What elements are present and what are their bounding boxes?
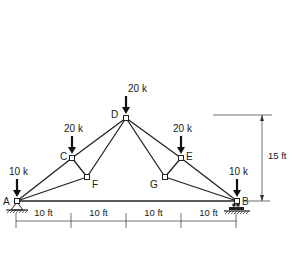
arrow-down-icon xyxy=(177,147,185,154)
truss-members xyxy=(17,118,237,201)
node-e xyxy=(179,156,184,161)
span-label: 10 ft xyxy=(199,207,218,218)
load-d: 20 k xyxy=(122,83,148,114)
node-b xyxy=(235,199,240,204)
load-e: 20 k xyxy=(173,123,193,154)
node-label-f: F xyxy=(92,179,98,190)
arrow-down-icon xyxy=(122,107,130,114)
arrow-down-icon xyxy=(233,190,241,197)
load-label-c: 20 k xyxy=(64,123,84,134)
load-c: 20 k xyxy=(64,123,84,154)
load-label-d: 20 k xyxy=(128,83,148,94)
node-c xyxy=(70,156,75,161)
load-b: 10 k xyxy=(229,166,249,197)
node-g xyxy=(163,175,168,180)
member-eb xyxy=(181,158,237,201)
node-d xyxy=(124,116,129,121)
span-label: 10 ft xyxy=(144,207,163,218)
span-dimension: 10 ft10 ft10 ft10 ft xyxy=(16,207,237,228)
load-label-a: 10 k xyxy=(9,166,29,177)
load-label-b: 10 k xyxy=(229,166,249,177)
member-af xyxy=(17,177,87,201)
node-label-a: A xyxy=(3,196,10,207)
load-label-e: 20 k xyxy=(173,123,193,134)
node-f xyxy=(85,175,90,180)
node-label-d: D xyxy=(111,109,118,120)
height-dimension: 15 ft xyxy=(213,115,287,201)
node-label-b: B xyxy=(242,196,249,207)
arrow-down-icon xyxy=(68,147,76,154)
arrow-down-icon xyxy=(13,190,21,197)
node-label-g: G xyxy=(150,179,158,190)
load-a: 10 k xyxy=(9,166,29,197)
member-dg xyxy=(126,118,165,177)
node-label-e: E xyxy=(186,151,193,162)
truss-diagram: ABCDEFG 10 k20 k20 k20 k10 k 10 ft10 ft1… xyxy=(0,0,292,257)
member-ac xyxy=(17,158,72,201)
node-a xyxy=(15,199,20,204)
member-fd xyxy=(87,118,126,177)
height-label: 15 ft xyxy=(268,150,287,161)
node-label-c: C xyxy=(60,151,67,162)
span-label: 10 ft xyxy=(34,207,53,218)
member-gb xyxy=(165,177,237,201)
span-label: 10 ft xyxy=(89,207,108,218)
